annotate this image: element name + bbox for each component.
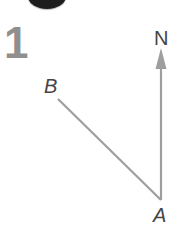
point-b-label: B xyxy=(44,76,57,96)
north-label: N xyxy=(154,28,168,48)
page: 1 N B A xyxy=(0,0,186,232)
line-a-to-b xyxy=(58,99,161,200)
point-a-label: A xyxy=(153,205,166,225)
north-arrow-head-icon xyxy=(156,48,167,69)
